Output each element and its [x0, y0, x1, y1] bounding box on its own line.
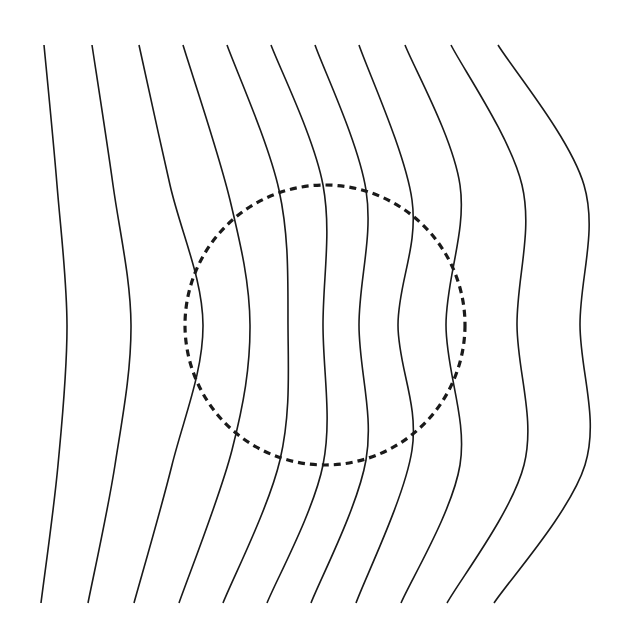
field-line-7 [311, 45, 368, 603]
dashed-boundary-circle [185, 185, 465, 465]
field-line-4 [179, 45, 250, 603]
field-line-5 [223, 45, 288, 603]
field-line-2 [88, 45, 131, 603]
field-line-10 [447, 45, 528, 603]
field-line-1 [41, 45, 67, 603]
diagram-canvas [0, 0, 629, 631]
field-line-11 [494, 45, 590, 603]
field-lines [41, 45, 590, 603]
field-line-3 [134, 45, 203, 603]
field-lines-diagram [0, 0, 629, 631]
field-line-9 [401, 45, 462, 603]
field-line-8 [356, 45, 413, 603]
field-line-6 [267, 45, 327, 603]
